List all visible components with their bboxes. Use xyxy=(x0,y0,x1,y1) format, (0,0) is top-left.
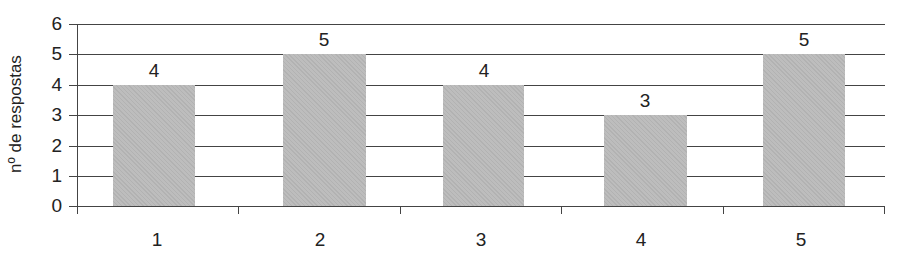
x-tick xyxy=(400,206,401,214)
x-tick-label: 2 xyxy=(279,230,361,250)
x-tick xyxy=(723,206,724,214)
x-tick-label: 4 xyxy=(600,230,682,250)
x-tick-label: 1 xyxy=(116,230,198,250)
y-tick xyxy=(69,24,77,25)
y-tick-label: 0 xyxy=(40,196,62,216)
x-tick xyxy=(238,206,239,214)
y-tick xyxy=(69,115,77,116)
bar-1 xyxy=(113,85,195,206)
y-tick-label: 3 xyxy=(40,105,62,125)
y-axis-title: nº de respostas xyxy=(7,54,25,174)
y-tick-label: 5 xyxy=(40,44,62,64)
bar-4 xyxy=(604,115,687,206)
data-label: 4 xyxy=(113,61,195,81)
bar-2 xyxy=(283,54,366,206)
x-tick-label: 5 xyxy=(760,230,842,250)
bar-3 xyxy=(443,85,524,206)
y-tick-label: 2 xyxy=(40,136,62,156)
data-label: 5 xyxy=(283,30,365,50)
y-tick-label: 4 xyxy=(40,75,62,95)
y-axis xyxy=(77,24,78,214)
y-tick-label: 6 xyxy=(40,14,62,34)
y-tick xyxy=(69,146,77,147)
x-tick xyxy=(561,206,562,214)
y-tick xyxy=(69,176,77,177)
data-label: 3 xyxy=(604,91,686,111)
y-tick xyxy=(69,206,77,207)
bar-5 xyxy=(763,54,845,206)
x-tick xyxy=(884,206,885,214)
x-axis xyxy=(77,206,885,207)
y-tick-label: 1 xyxy=(40,166,62,186)
x-tick-label: 3 xyxy=(440,230,522,250)
y-tick xyxy=(69,85,77,86)
gridline-6 xyxy=(77,24,885,25)
data-label: 5 xyxy=(763,30,845,50)
data-label: 4 xyxy=(443,61,525,81)
y-tick xyxy=(69,54,77,55)
